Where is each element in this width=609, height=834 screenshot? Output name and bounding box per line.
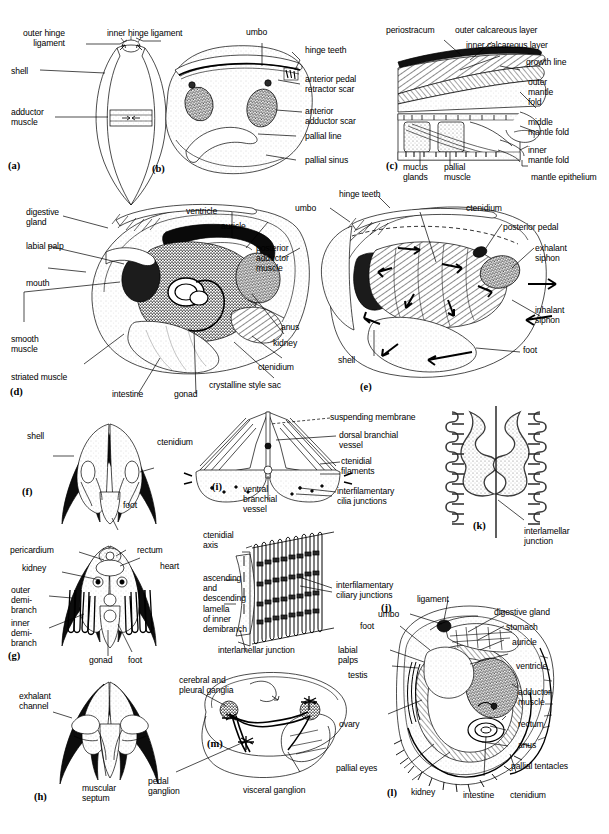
label-ventricle-l: ventricle [516,661,547,671]
label-inhalant-siphon-e: inhalant siphon [535,305,564,325]
label-shell-e: shell [338,355,355,365]
label-foot-e: foot [523,345,537,355]
label-middle-mantle-fold: middle mantle fold [528,117,569,137]
label-pallial-tentacles-l: pallial tentacles [511,761,568,771]
label-pallial-eyes-l: pallial eyes [336,763,377,773]
label-foot-f: foot [123,500,137,510]
panel-id-d: (d) [10,386,23,397]
label-ctenidium-f: ctenidium [157,437,193,447]
label-ctenidial-filaments: ctenidial filaments [341,456,375,476]
panel-g-artwork [49,546,156,656]
label-dorsal-branchial-vessel: dorsal branchial vessel [339,430,398,450]
label-heart-g: heart [160,561,179,571]
label-intestine-d: intestine [112,389,143,399]
label-pedal-ganglion-m: pedal ganglion [148,776,180,796]
label-striated-muscle-d: striated muscle [11,372,67,382]
label-intestine-l: intestine [463,790,494,800]
label-hinge-teeth-e: hinge teeth [339,189,380,199]
panel-id-a: (a) [8,160,20,171]
label-ascending-descending-lamella: ascending and descending lamella of inne… [203,573,247,634]
panel-id-k: (k) [473,520,486,531]
label-suspending-membrane: suspending membrane [330,412,416,422]
label-labial-palp-d: labial palp [26,241,64,251]
label-outer-mantle-fold: outer mantle fold [528,77,553,108]
label-interlamellar-junction-k: interlamellar junction [524,526,570,546]
label-anus-d: anus [281,322,299,332]
panel-f-artwork [53,424,156,530]
label-pallial-line: pallial line [305,131,342,141]
label-anterior-adductor-scar: anterior adductor scar [305,106,356,126]
label-anterior-pedal-retractor-scar: anterior pedal retractor scar [305,74,356,94]
label-umbo-l: umbo [378,609,399,619]
label-cerebral-pleural-ganglia-m: cerebral and pleural ganglia [179,675,233,695]
label-ctenidial-axis: ctenidial axis [203,530,234,550]
label-mantle-epithelium: mantle epithelium [531,172,597,182]
label-digestive-gland-d: digestive gland [26,207,59,227]
panel-id-h: (h) [34,791,47,802]
label-auricle-l: auricle [512,637,537,647]
label-ventricle-d: ventricle [186,206,217,216]
panel-k-artwork [444,406,548,538]
label-outer-calcareous-layer: outer calcareous layer [455,25,537,35]
label-gonad-d: gonad [174,389,197,399]
label-kidney-d: kidney [273,338,297,348]
label-adductor-muscle-a: adductor muscle [11,107,44,127]
panel-id-e: (e) [360,381,372,392]
label-pericardium-g: pericardium [10,545,54,555]
panel-id-f: (f) [22,486,33,497]
panel-c-artwork [398,40,546,166]
label-stomach-l: stomach [506,622,538,632]
label-gonad-g: gonad [89,655,112,665]
label-ctenidium-l: ctenidium [510,790,546,800]
label-inner-mantle-fold: inner mantle fold [528,145,569,165]
label-crystalline-style-sac: crystalline style sac [209,380,281,390]
label-shell-f: shell [27,431,44,441]
label-pallial-sinus: pallial sinus [305,155,348,165]
label-shell-a: shell [11,66,28,76]
label-adductor-muscle-l: adductor muscle [518,687,551,707]
label-inner-demibranch-g: inner demi- branch [11,618,37,649]
panel-b-artwork [166,43,312,174]
panel-a-artwork [40,36,166,205]
label-exhalant-channel-h: exhalant channel [19,691,51,711]
panel-id-b: (b) [152,163,165,174]
label-foot-g: foot [128,655,142,665]
label-muscular-septum-h: muscular septum [82,783,116,803]
label-periostracum: periostracum [386,25,434,35]
label-ctenidium-d: ctenidium [258,362,294,372]
label-exhalant-siphon-e: exhalant siphon [535,243,567,263]
label-interfilamentary-ciliary-junctions: interfilamentary ciliary junctions [336,580,393,600]
label-outer-hinge-ligament: outer hinge ligament [23,28,65,48]
label-labial-palps-l: labial palps [338,645,358,665]
label-testis-l: testis [348,670,367,680]
label-ventral-branchial-vessel: ventral branchial vessel [243,484,277,515]
panel-id-l: (l) [387,787,397,798]
figure-plate: (a) (b) (c) (d) (e) (f) (g) (h) (i) (j) … [0,0,609,834]
label-smooth-muscle-d: smooth muscle [11,334,39,354]
label-interlamellar-junction-j: interlamellar junction [218,645,295,655]
label-outer-demibranch-g: outer demi- branch [11,585,37,616]
label-inner-calcareous-layer: inner calcareous layer [466,40,548,50]
label-auricle-d: auricle [221,221,246,231]
label-inner-hinge-ligament: inner hinge ligament [107,28,182,38]
panel-id-i: (i) [212,481,222,492]
label-umbo-e: umbo [295,203,316,213]
label-interfilamentary-cilia-junctions: interfilamentary cilia junctions [337,486,394,506]
label-mucus-glands: mucus glands [403,162,428,182]
label-rectum-g: rectum [137,545,163,555]
label-visceral-ganglion-m: visceral ganglion [243,785,305,795]
label-rectum-l: rectum [518,719,544,729]
label-foot-l: foot [360,621,374,631]
label-hinge-teeth-b: hinge teeth [305,45,346,55]
panel-id-g: (g) [8,650,20,661]
panel-h-artwork [53,682,158,784]
label-kidney-l: kidney [411,787,435,797]
label-ovary-l: ovary [339,719,360,729]
label-mouth-d: mouth [26,278,49,288]
panel-id-m: (m) [207,738,223,749]
label-posterior-adductor-muscle-d: posterior adductor muscle [256,243,289,274]
label-digestive-gland-l: digestive gland [494,607,550,617]
label-ctenidium-e: ctenidium [466,203,502,213]
label-growth-line: growth line [526,57,566,67]
label-kidney-g: kidney [22,563,46,573]
